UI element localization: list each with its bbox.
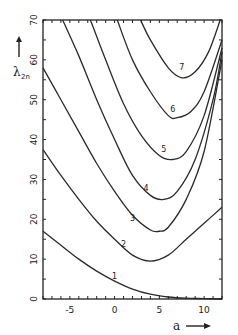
curve-label-1: 1	[112, 272, 117, 281]
y-axis-arrowhead-icon	[16, 36, 22, 42]
curve-1	[43, 231, 222, 299]
tick-labels: -50510010203040506070	[29, 14, 210, 315]
curve-3	[43, 60, 222, 232]
curves	[43, 20, 222, 299]
x-tick-label: 0	[112, 305, 118, 315]
y-tick-label: 0	[29, 296, 39, 302]
curve-labels: 1234567	[112, 63, 184, 281]
y-tick-label: 50	[29, 94, 39, 106]
x-axis-label: a	[173, 319, 180, 333]
y-tick-label: 30	[29, 173, 39, 185]
x-axis-arrowhead-icon	[204, 323, 211, 329]
x-tick-label: 5	[156, 305, 162, 315]
curve-label-4: 4	[143, 184, 148, 193]
y-tick-label: 60	[29, 54, 39, 66]
y-tick-label: 40	[29, 134, 39, 146]
y-tick-label: 20	[29, 213, 39, 225]
x-axis-title: a	[173, 319, 211, 333]
x-tick-label: -5	[65, 305, 74, 315]
curve-label-7: 7	[179, 63, 184, 72]
x-tick-label: 10	[198, 305, 210, 315]
y-tick-label: 10	[29, 253, 39, 265]
curve-label-6: 6	[170, 105, 175, 114]
y-axis-title: λ 2n	[13, 36, 30, 81]
y-axis-label-subscript: 2n	[21, 73, 30, 81]
chart: 1234567 -50510010203040506070 λ 2n a	[0, 0, 238, 335]
curve-2	[43, 150, 222, 262]
curve-label-3: 3	[130, 214, 135, 223]
y-tick-label: 70	[29, 14, 39, 26]
curve-label-5: 5	[161, 145, 166, 154]
y-axis-label: λ	[13, 65, 21, 79]
curve-label-2: 2	[121, 240, 126, 249]
